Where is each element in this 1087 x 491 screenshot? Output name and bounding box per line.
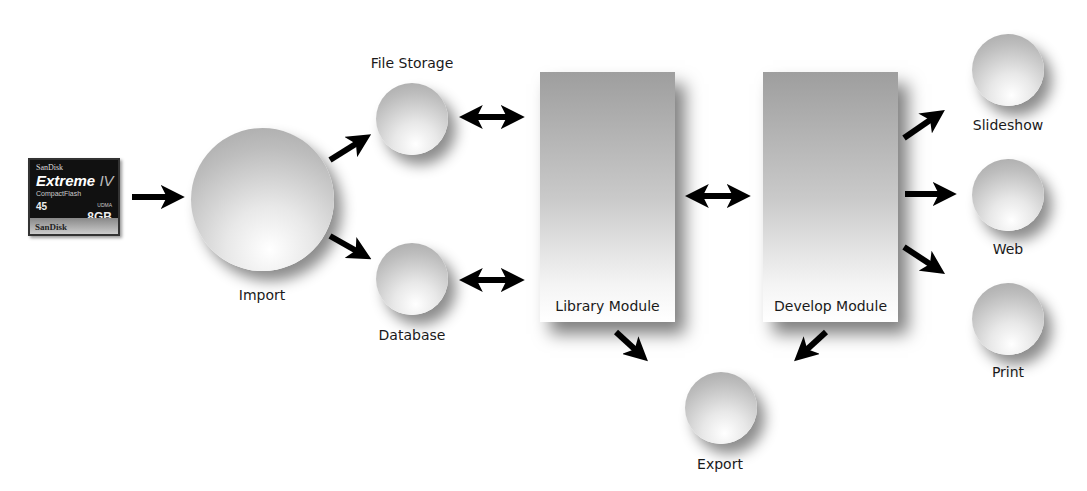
arrow-import-to-file-storage	[330, 140, 362, 160]
arrow-develop-to-slideshow	[904, 116, 936, 138]
arrow-develop-to-export	[802, 332, 826, 354]
arrow-develop-to-print	[904, 247, 936, 268]
arrows-layer	[0, 0, 1087, 491]
workflow-diagram: SanDisk Extreme IV CompactFlash 45 UDMA …	[0, 0, 1087, 491]
arrow-import-to-database	[330, 236, 362, 254]
arrow-library-to-export	[616, 332, 640, 354]
